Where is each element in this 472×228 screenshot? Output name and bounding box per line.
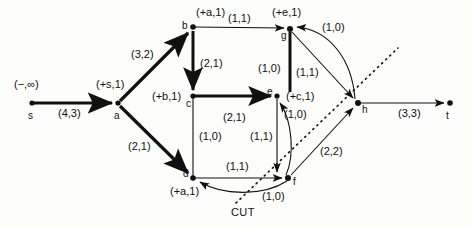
edge-label-s-a: (4,3)	[58, 107, 81, 119]
cut-label: CUT	[231, 206, 255, 218]
edge-label-h-g: (1,0)	[322, 21, 345, 33]
node-label-c: (+b,1)	[152, 90, 181, 102]
edge-label-a-b: (3,2)	[131, 48, 154, 60]
node-name-g: g	[281, 30, 287, 41]
node-label-d: (+a,1)	[170, 185, 199, 197]
edge-label-b-g: (1,1)	[228, 12, 251, 24]
edge-label-c-d: (1,0)	[199, 130, 222, 142]
node-name-h: h	[362, 104, 368, 115]
edge-label-b-c: (2,1)	[200, 57, 223, 69]
node-name-c: c	[186, 98, 191, 109]
edge-label-f-e: (1,0)	[284, 108, 307, 120]
node-name-a: a	[114, 110, 120, 121]
edge-label-c-e: (2,1)	[223, 111, 246, 123]
edge-label-g-e: (1,0)	[258, 62, 281, 74]
node-name-e: e	[267, 86, 273, 97]
node-label-a: (+s,1)	[96, 78, 124, 90]
node-name-s: s	[28, 110, 33, 121]
node-name-t: t	[446, 110, 449, 121]
node-name-d: d	[183, 168, 189, 179]
edge-label-e-f: (1,1)	[250, 130, 273, 142]
node-label-b: (+a,1)	[196, 6, 225, 18]
edge-label-f-h: (2,2)	[320, 145, 343, 157]
node-name-f: f	[293, 176, 296, 187]
edge-label-a-d: (2,1)	[128, 140, 151, 152]
node-label-s: (−,∞)	[14, 78, 39, 90]
edge-h-g	[297, 27, 355, 99]
node-label-e: (+c,1)	[286, 90, 314, 102]
edge-label-d-f: (1,1)	[226, 160, 249, 172]
edge-g-h	[292, 32, 353, 98]
node-label-g: (+e,1)	[272, 6, 301, 18]
edge-label-h-t: (3,3)	[398, 107, 421, 119]
node-name-b: b	[182, 20, 188, 31]
edge-b-g	[194, 27, 284, 28]
flow-network-figure: (−,∞) (+s,1) (+a,1) (+b,1) (+a,1) (+c,1)…	[0, 0, 472, 228]
edge-label-f-d: (1,0)	[262, 190, 285, 202]
edge-label-g-h: (1,1)	[296, 66, 319, 78]
